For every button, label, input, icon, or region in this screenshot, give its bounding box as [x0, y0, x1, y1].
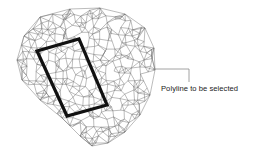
selected-polyline[interactable] — [37, 39, 107, 116]
triangle-mesh — [17, 8, 155, 146]
polyline-annotation-label: Polyline to be selected — [161, 84, 238, 93]
tin-mesh — [0, 0, 267, 155]
diagram-canvas: Polyline to be selected — [0, 0, 267, 155]
leader-line — [153, 69, 189, 82]
